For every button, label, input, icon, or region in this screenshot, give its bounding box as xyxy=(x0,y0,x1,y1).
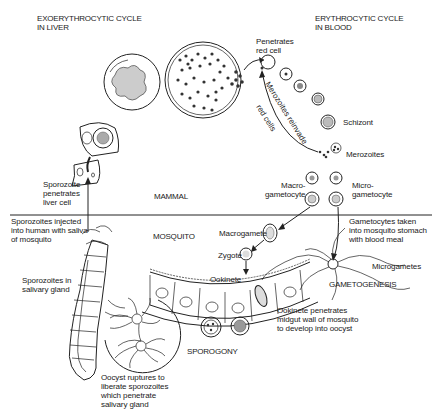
label-ookinete-penetrates: Ookinete penetrates midgut wall of mosqu… xyxy=(277,306,358,333)
sporozoite xyxy=(87,157,90,172)
label-mammal: MAMMAL xyxy=(154,192,188,201)
label-gametocytes-taken: Gametocytes taken into mosquito stomach … xyxy=(349,217,427,244)
label-sporozoites-injected: Sporozoites injected into human with sal… xyxy=(11,217,88,244)
label-merozoites: Merozoites xyxy=(346,150,384,159)
schizont-cell xyxy=(321,115,335,129)
label-schizont: Schizont xyxy=(343,118,373,127)
ring-stage-cell xyxy=(280,68,292,80)
label-zygote: Zygote xyxy=(218,251,242,260)
macrogametocyte-cells xyxy=(305,172,319,206)
label-ookinete: Ookinete xyxy=(210,275,241,284)
label-sporozoite-penetrates: Sporozoite penetrates liver cell xyxy=(43,180,80,207)
microgametocyte-cells xyxy=(329,172,343,206)
label-macrogametocyte: Macro- gametocyte xyxy=(265,181,305,199)
label-microgametocyte: Micro- gametocyte xyxy=(352,181,392,199)
label-mosquito: MOSQUITO xyxy=(153,232,195,241)
salivary-gland xyxy=(69,226,112,380)
label-oocyst-ruptures: Oocyst ruptures to liberate sporozoites … xyxy=(101,373,168,409)
exoerythrocytic-cycle-title: EXOERYTHROCYTIC CYCLE IN LIVER xyxy=(37,14,142,32)
red-cell xyxy=(261,55,275,69)
erythrocytic-cycle-title: ERYTHROCYTIC CYCLE IN BLOOD xyxy=(315,14,403,32)
merozoite-cluster xyxy=(319,143,341,158)
label-microgametes: Microgametes xyxy=(372,262,421,271)
label-gametogenesis: GAMETOGENESIS xyxy=(329,280,397,289)
ruptured-oocyst xyxy=(105,298,181,373)
liver-cell-stage-2 xyxy=(80,123,119,156)
early-schizont-cell xyxy=(312,93,324,105)
arrow-to-macrogamete xyxy=(280,207,310,228)
mature-liver-schizont xyxy=(165,42,241,118)
label-sporogony: SPOROGONY xyxy=(187,347,238,356)
released-merozoites xyxy=(230,70,244,88)
label-macrogamete: Macrogamete xyxy=(219,229,267,238)
label-penetrates-red-cell: Penetrates red cell xyxy=(256,37,294,55)
ookinete-cell xyxy=(253,284,270,308)
oocyst-developing xyxy=(201,317,221,337)
label-sporozoites-in-gland: Sporozoites in salivary gland xyxy=(22,276,71,294)
liver-schizont xyxy=(104,54,160,110)
trophozoite-cell xyxy=(294,80,306,92)
